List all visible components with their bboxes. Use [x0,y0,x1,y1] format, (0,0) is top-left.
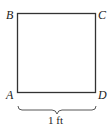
vertex-label-a: A [6,89,13,101]
square-diagram [0,0,112,131]
vertex-label-c: C [98,9,106,21]
vertex-label-d: D [98,89,107,101]
brace [18,106,96,114]
side-length-label: 1 ft [48,115,63,126]
square [18,14,96,93]
vertex-label-b: B [6,9,13,21]
